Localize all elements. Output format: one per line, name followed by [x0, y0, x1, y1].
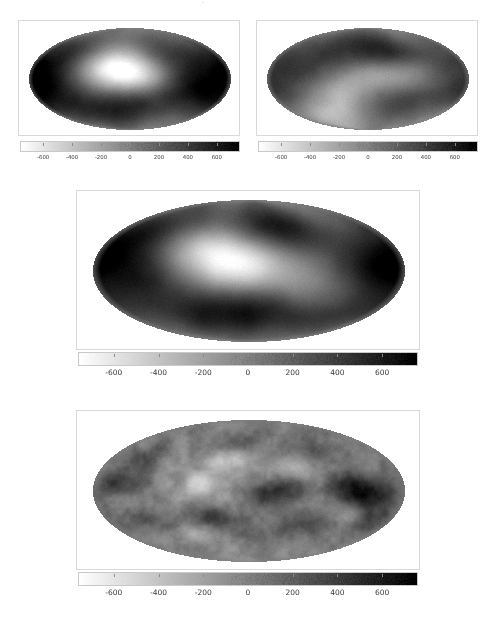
colorbar-tick-label: 0 [246, 369, 251, 377]
colorbar-tick [397, 143, 398, 146]
panel-middle-sky-map [77, 191, 419, 349]
colorbar-tick-label: 400 [421, 155, 431, 160]
colorbar-tick-label: -200 [95, 155, 107, 160]
panel-top-left-colorbar: -600-400-2000200400600 [20, 141, 240, 166]
colorbar-tick [159, 354, 160, 357]
panel-top-left-colorbar-ticks: -600-400-2000200400600 [20, 153, 240, 163]
panel-middle-colorbar: -600-400-2000200400600 [78, 352, 418, 380]
colorbar-tick-label: 0 [128, 155, 131, 160]
panel-top-left-map-frame [18, 20, 240, 136]
colorbar-tick [310, 143, 311, 146]
colorbar-tick [159, 574, 160, 577]
colorbar-tick [382, 574, 383, 577]
colorbar-tick [114, 354, 115, 357]
colorbar-tick-label: -400 [150, 369, 167, 377]
panel-top-left-sky-map [19, 21, 239, 135]
figure-root: · -600-400-2000200400600-600-400-2000200… [0, 0, 496, 617]
colorbar-tick-label: 400 [330, 589, 344, 597]
colorbar-tick [281, 143, 282, 146]
colorbar-tick [455, 143, 456, 146]
panel-top-right-colorbar-ticks: -600-400-2000200400600 [258, 153, 478, 163]
colorbar-tick [248, 354, 249, 357]
colorbar-tick [203, 574, 204, 577]
colorbar-tick-label: 400 [330, 369, 344, 377]
colorbar-tick [293, 354, 294, 357]
colorbar-tick [130, 143, 131, 146]
panel-top-right-sky-map [257, 21, 477, 135]
colorbar-tick-label: 200 [286, 589, 300, 597]
colorbar-tick-label: -400 [150, 589, 167, 597]
panel-top-right-colorbar: -600-400-2000200400600 [258, 141, 478, 166]
colorbar-tick-label: 0 [246, 589, 251, 597]
colorbar-tick-label: 400 [183, 155, 193, 160]
colorbar-tick-label: -600 [105, 369, 122, 377]
colorbar-tick [293, 574, 294, 577]
colorbar-tick [337, 354, 338, 357]
panel-bottom-sky-map [77, 411, 419, 569]
colorbar-tick [337, 574, 338, 577]
panel-middle-colorbar-ticks: -600-400-2000200400600 [78, 367, 418, 377]
colorbar-tick-label: -600 [37, 155, 49, 160]
colorbar-tick [426, 143, 427, 146]
colorbar-tick-label: -400 [66, 155, 78, 160]
colorbar-tick-label: 200 [286, 369, 300, 377]
colorbar-tick-label: 200 [154, 155, 164, 160]
colorbar-tick-label: -200 [333, 155, 345, 160]
colorbar-tick [72, 143, 73, 146]
colorbar-tick [217, 143, 218, 146]
colorbar-tick-label: -400 [304, 155, 316, 160]
panel-top-right-map-frame [256, 20, 478, 136]
colorbar-tick [101, 143, 102, 146]
panel-bottom-colorbar: -600-400-2000200400600 [78, 572, 418, 600]
colorbar-tick-label: -200 [195, 589, 212, 597]
colorbar-tick-label: 600 [375, 369, 389, 377]
top-marker: · [202, 0, 204, 7]
colorbar-tick [43, 143, 44, 146]
colorbar-tick-label: 600 [450, 155, 460, 160]
colorbar-tick [248, 574, 249, 577]
colorbar-tick-label: 0 [366, 155, 369, 160]
colorbar-tick [159, 143, 160, 146]
colorbar-tick-label: 200 [392, 155, 402, 160]
colorbar-tick-label: 600 [212, 155, 222, 160]
colorbar-tick-label: 600 [375, 589, 389, 597]
colorbar-tick [114, 574, 115, 577]
colorbar-tick [339, 143, 340, 146]
panel-middle-map-frame [76, 190, 420, 350]
colorbar-tick-label: -200 [195, 369, 212, 377]
colorbar-tick [188, 143, 189, 146]
colorbar-tick [203, 354, 204, 357]
colorbar-tick-label: -600 [275, 155, 287, 160]
panel-bottom-map-frame [76, 410, 420, 570]
colorbar-tick-label: -600 [105, 589, 122, 597]
colorbar-tick [368, 143, 369, 146]
colorbar-tick [382, 354, 383, 357]
panel-bottom-colorbar-ticks: -600-400-2000200400600 [78, 587, 418, 597]
